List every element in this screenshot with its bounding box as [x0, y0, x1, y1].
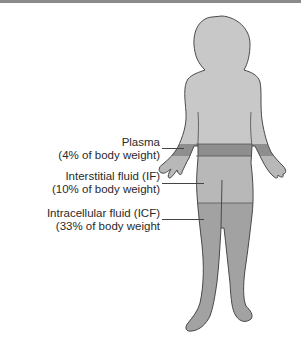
plasma-leader-line — [162, 148, 184, 149]
plasma-name: Plasma — [58, 136, 160, 149]
intracellular-name: Intracellular fluid (ICF) — [47, 207, 160, 220]
interstitial-name: Interstitial fluid (IF) — [52, 170, 160, 183]
plasma-detail: (4% of body weight) — [58, 149, 160, 162]
interstitial-leader-line — [162, 183, 204, 184]
interstitial-detail: (10% of body weight) — [52, 183, 160, 196]
intracellular-label: Intracellular fluid (ICF) (33% of body w… — [47, 207, 160, 233]
intracellular-leader-line — [162, 219, 204, 220]
intracellular-detail: (33% of body weight — [47, 220, 160, 233]
interstitial-label: Interstitial fluid (IF) (10% of body wei… — [52, 170, 160, 196]
plasma-label: Plasma (4% of body weight) — [58, 136, 160, 162]
